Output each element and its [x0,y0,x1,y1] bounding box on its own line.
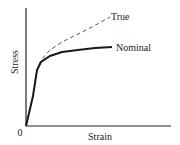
y-axis-label: Stress [9,50,20,74]
true-label: True [111,11,130,22]
origin-label: 0 [18,127,23,138]
x-axis-label: Strain [88,131,112,142]
stress-strain-chart: True Nominal Strain Stress 0 [0,0,180,145]
true-curve [26,17,110,126]
nominal-label: Nominal [116,42,151,53]
nominal-curve [26,47,112,126]
